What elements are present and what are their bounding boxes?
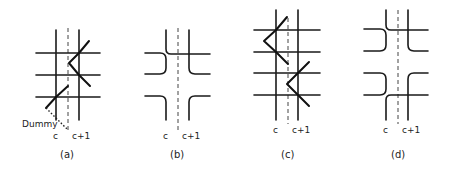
column-label-c-plus-1: c+1: [402, 125, 420, 135]
column-label-c-plus-1: c+1: [292, 125, 310, 135]
panel-caption: (d): [391, 149, 405, 160]
panel-a: Dummy c c+1 (a): [22, 28, 100, 160]
column-label-c-plus-1: c+1: [182, 131, 200, 141]
panel-d: c c+1 (d): [364, 10, 428, 160]
column-label-c: c: [383, 125, 388, 135]
channel-routing-diagram: Dummy c c+1 (a) c c+1 (b) c c+1 (c): [0, 0, 450, 170]
wire-bend: [364, 73, 386, 95]
column-label-c-plus-1: c+1: [72, 131, 90, 141]
panel-caption: (b): [170, 149, 184, 160]
column-label-c: c: [163, 131, 168, 141]
panel-b: c c+1 (b): [145, 28, 210, 160]
dummy-label: Dummy: [22, 119, 58, 129]
wire-bend: [166, 30, 210, 54]
panel-caption: (c): [281, 149, 294, 160]
column-label-c: c: [53, 131, 58, 141]
wire-bend: [408, 73, 428, 120]
wire-bend: [189, 96, 210, 120]
wire-bend: [145, 53, 166, 74]
panel-c: c c+1 (c): [254, 10, 320, 160]
wire-bend: [386, 10, 428, 30]
wire-bend: [386, 95, 428, 120]
panel-caption: (a): [60, 149, 74, 160]
wire-bend: [364, 29, 386, 51]
column-label-c: c: [273, 125, 278, 135]
wire-bend: [189, 30, 210, 74]
wire-bend: [145, 96, 166, 120]
